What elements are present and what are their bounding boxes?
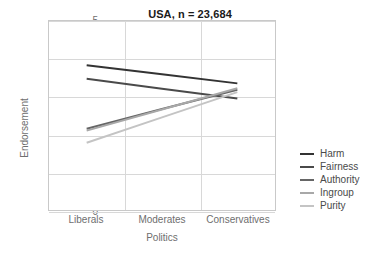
legend-line-icon: [300, 192, 314, 194]
legend-item-label: Purity: [320, 200, 346, 211]
plot-area: [48, 20, 276, 211]
legend-item-label: Harm: [320, 148, 344, 159]
series-line: [87, 88, 238, 130]
legend-line-icon: [300, 205, 314, 207]
series-lines: [49, 21, 275, 210]
legend-line-icon: [300, 179, 314, 181]
series-line: [87, 92, 238, 143]
legend-line-icon: [300, 166, 314, 168]
y-axis-label: Endorsement: [19, 68, 30, 188]
x-axis-tick-label: Liberals: [68, 214, 103, 225]
x-axis-label: Politics: [48, 232, 276, 243]
chart-title: USA, n = 23,684: [0, 8, 380, 20]
x-axis-tick-label: Moderates: [138, 214, 185, 225]
legend-item-label: Authority: [320, 174, 359, 185]
legend-item-label: Fairness: [320, 161, 358, 172]
x-axis-tick-label: Conservatives: [206, 214, 269, 225]
legend-item[interactable]: Fairness: [300, 160, 359, 173]
series-line: [87, 65, 238, 83]
legend-item[interactable]: Ingroup: [300, 186, 359, 199]
legend-item[interactable]: Purity: [300, 199, 359, 212]
legend-item[interactable]: Authority: [300, 173, 359, 186]
legend-item[interactable]: Harm: [300, 147, 359, 160]
legend-item-label: Ingroup: [320, 187, 354, 198]
chart-legend: HarmFairnessAuthorityIngroupPurity: [300, 147, 359, 212]
gridline-horizontal: [49, 212, 275, 213]
legend-line-icon: [300, 153, 314, 155]
chart-page: USA, n = 23,684 Endorsement 012345 Liber…: [0, 0, 380, 256]
